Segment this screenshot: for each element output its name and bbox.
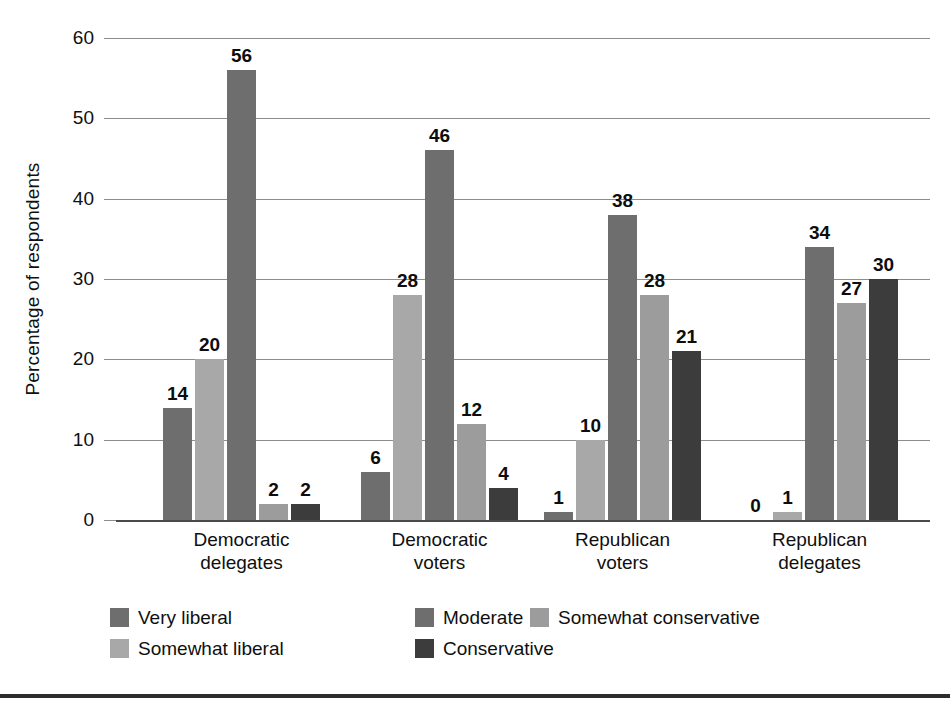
bar-value-label: 0 [750,496,761,515]
bar[interactable] [291,504,320,520]
legend-item[interactable]: Conservative [415,639,554,658]
y-axis-tick-label: 20 [38,349,94,369]
bar[interactable] [425,150,454,520]
bar-value-label: 2 [268,480,279,499]
bar-groups: 142056226284612411038282101342730 [116,38,930,520]
bar-value-label: 1 [782,488,793,507]
bar-slot: 12 [457,38,486,520]
category-label-line: voters [514,551,731,574]
legend-label: Very liberal [138,608,232,627]
bar-group: 01342730 [741,38,898,520]
bar-slot: 27 [837,38,866,520]
bar[interactable] [576,440,605,520]
chart-legend: Very liberalSomewhat liberalModerateSome… [110,608,900,670]
bar-slot: 28 [640,38,669,520]
legend-swatch-icon [530,608,549,627]
bar-value-label: 27 [841,279,862,298]
bar[interactable] [227,70,256,520]
bar-slot: 4 [489,38,518,520]
bar-slot: 46 [425,38,454,520]
bar[interactable] [672,351,701,520]
y-axis-tickmark [104,440,116,441]
bar-slot: 38 [608,38,637,520]
y-axis-tick-label: 60 [38,28,94,48]
legend-swatch-icon [110,639,129,658]
bar-group: 14205622 [163,38,320,520]
legend-item[interactable]: Somewhat conservative [530,608,760,627]
legend-item[interactable]: Very liberal [110,608,232,627]
bar[interactable] [805,247,834,520]
bar-value-label: 46 [429,126,450,145]
bar[interactable] [393,295,422,520]
bar-slot: 2 [291,38,320,520]
bar[interactable] [163,408,192,520]
category-label-line: Republican [514,528,731,551]
bar-value-label: 14 [167,384,188,403]
bar-value-label: 30 [873,255,894,274]
category-label-line: delegates [711,551,928,574]
bar-value-label: 2 [300,480,311,499]
bar[interactable] [457,424,486,520]
bar-value-label: 28 [644,271,665,290]
category-label-line: Republican [711,528,928,551]
bar-slot: 14 [163,38,192,520]
axis-baseline [116,520,930,522]
bar-value-label: 56 [231,46,252,65]
bar-slot: 28 [393,38,422,520]
bar-slot: 10 [576,38,605,520]
bar-group: 62846124 [361,38,518,520]
bar[interactable] [773,512,802,520]
category-label-line: Democratic [133,528,350,551]
bar-slot: 1 [544,38,573,520]
bar-value-label: 21 [676,327,697,346]
y-axis-tickmark [104,118,116,119]
bar-slot: 1 [773,38,802,520]
bar[interactable] [837,303,866,520]
legend-swatch-icon [415,608,434,627]
y-axis-tickmark [104,38,116,39]
y-axis-tick-label: 40 [38,189,94,209]
bar-slot: 20 [195,38,224,520]
legend-label: Moderate [443,608,523,627]
bar[interactable] [544,512,573,520]
legend-label: Somewhat liberal [138,639,284,658]
bar[interactable] [361,472,390,520]
bar-value-label: 20 [199,335,220,354]
bar-value-label: 6 [370,448,381,467]
bar-slot: 56 [227,38,256,520]
x-axis-category-label: Republicanvoters [514,528,731,574]
legend-item[interactable]: Somewhat liberal [110,639,284,658]
bar[interactable] [259,504,288,520]
bar[interactable] [608,215,637,520]
legend-label: Somewhat conservative [558,608,760,627]
bar-slot: 30 [869,38,898,520]
y-axis-tickmark [104,520,116,521]
category-label-line: delegates [133,551,350,574]
bar-value-label: 38 [612,191,633,210]
bar[interactable] [640,295,669,520]
y-axis-tickmark [104,359,116,360]
bar-value-label: 28 [397,271,418,290]
legend-swatch-icon [415,639,434,658]
y-axis-tick-label: 10 [38,430,94,450]
legend-label: Conservative [443,639,554,658]
bar[interactable] [869,279,898,520]
bar[interactable] [195,359,224,520]
bar-slot: 34 [805,38,834,520]
bar-slot: 2 [259,38,288,520]
bottom-rule [0,694,950,698]
y-axis-tick-label: 0 [38,510,94,530]
legend-swatch-icon [110,608,129,627]
bar-value-label: 12 [461,400,482,419]
y-axis-tick-label: 30 [38,269,94,289]
bar[interactable] [489,488,518,520]
bar-value-label: 4 [498,464,509,483]
bar-value-label: 1 [553,488,564,507]
bar-slot: 21 [672,38,701,520]
bar-slot: 0 [741,38,770,520]
y-axis-tickmark [104,199,116,200]
legend-item[interactable]: Moderate [415,608,523,627]
x-axis-category-label: Democraticdelegates [133,528,350,574]
x-axis-category-label: Republicandelegates [711,528,928,574]
bar-value-label: 10 [580,416,601,435]
